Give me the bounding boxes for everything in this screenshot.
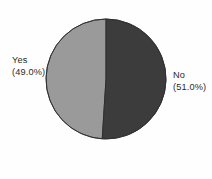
pie-chart-figure: Yes (49.0%) No (51.0%) <box>0 0 212 179</box>
pie-slice-no <box>102 19 166 139</box>
pie-label-yes-name: Yes <box>12 55 45 67</box>
pie-label-no: No (51.0%) <box>173 70 206 93</box>
pie-label-no-name: No <box>173 70 206 82</box>
pie-label-no-percent: (51.0%) <box>173 82 206 94</box>
pie-label-yes-percent: (49.0%) <box>12 67 45 79</box>
pie-slice-yes <box>46 19 106 139</box>
pie-label-yes: Yes (49.0%) <box>12 55 45 78</box>
